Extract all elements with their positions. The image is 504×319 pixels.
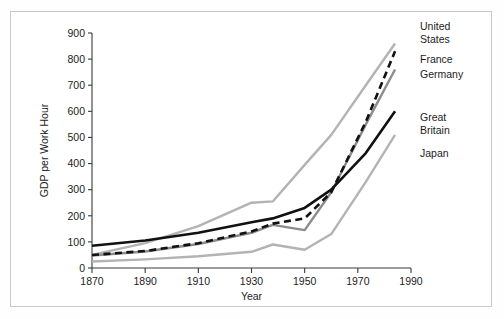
line-chart: 0100200300400500600700800900187018901910… — [0, 0, 504, 319]
series-line-great-britain — [92, 111, 395, 245]
x-tick-label: 1930 — [240, 275, 264, 287]
x-tick-label: 1910 — [187, 275, 211, 287]
y-tick-label: 0 — [79, 262, 85, 274]
x-tick-label: 1870 — [80, 275, 104, 287]
y-tick-label: 200 — [67, 210, 85, 222]
y-tick-label: 400 — [67, 157, 85, 169]
y-tick-label: 900 — [67, 27, 85, 39]
x-tick-label: 1970 — [346, 275, 370, 287]
series-lines — [92, 43, 395, 261]
y-tick-label: 100 — [67, 236, 85, 248]
x-tick-label: 1890 — [133, 275, 157, 287]
y-tick-label: 600 — [67, 105, 85, 117]
series-labels: UnitedStatesFranceGermanyGreatBritainJap… — [420, 20, 464, 159]
series-label-germany: Germany — [420, 68, 464, 80]
x-axis-title: Year — [241, 290, 263, 302]
figure-root: 0100200300400500600700800900187018901910… — [0, 0, 504, 319]
series-label-france: France — [420, 53, 453, 65]
series-line-germany — [92, 70, 395, 256]
y-tick-label: 700 — [67, 79, 85, 91]
y-axis-title: GDP per Work Hour — [38, 103, 50, 197]
x-tick-label: 1990 — [399, 275, 423, 287]
y-tick-label: 300 — [67, 183, 85, 195]
series-label-great-britain: Britain — [420, 124, 450, 136]
series-label-united-states: States — [420, 33, 450, 45]
series-label-united-states: United — [420, 20, 451, 32]
series-label-japan: Japan — [420, 147, 449, 159]
x-tick-label: 1950 — [293, 275, 317, 287]
y-tick-label: 800 — [67, 53, 85, 65]
series-label-great-britain: Great — [420, 111, 446, 123]
y-tick-label: 500 — [67, 131, 85, 143]
